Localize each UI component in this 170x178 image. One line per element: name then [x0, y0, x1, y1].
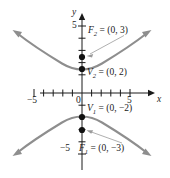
label-vertex-lower: V1 = (0, −2)	[87, 104, 132, 115]
point-focus-lower	[79, 127, 85, 133]
label-focus-lower: F1 = (0, −3)	[79, 144, 124, 155]
point-focus-upper	[79, 54, 85, 60]
focus-lower-leader-arrow-icon	[87, 130, 94, 134]
y-tick-label-5: 5	[72, 21, 77, 31]
focus-lower-leader-line	[90, 132, 122, 144]
label-vertex-upper-value: = (0, 2)	[96, 67, 127, 77]
label-focus-lower-value: = (0, −3)	[88, 143, 124, 153]
y-axis-arrow-icon	[79, 13, 85, 20]
point-vertex-upper	[79, 66, 85, 72]
point-vertex-lower	[79, 114, 85, 120]
y-tick-label--5: −5	[60, 144, 70, 154]
focus-upper-leader-line	[90, 36, 124, 55]
hyperbola-figure: y x 5 −5 −5 0 5 F2 = (0, 3) V2 = (0, 2) …	[0, 0, 170, 178]
label-focus-upper: F2 = (0, 3)	[88, 26, 128, 37]
label-vertex-upper: V2 = (0, 2)	[87, 68, 127, 79]
x-axis	[34, 89, 155, 97]
x-tick-label-0: 0	[76, 96, 81, 106]
y-axis-label: y	[72, 8, 76, 18]
x-axis-label: x	[157, 95, 161, 105]
label-vertex-lower-value: = (0, −2)	[96, 103, 132, 113]
x-axis-arrow-icon	[148, 90, 155, 96]
focus-upper-leader-arrow-icon	[87, 54, 94, 58]
x-tick-label--5: −5	[27, 96, 37, 106]
label-focus-upper-value: = (0, 3)	[97, 25, 128, 35]
